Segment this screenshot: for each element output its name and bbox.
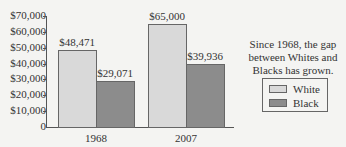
annotation-line: Blacks has grown. <box>240 64 346 77</box>
y-tick-label: $10,000 <box>10 104 46 116</box>
y-tick <box>43 16 46 17</box>
x-category-label: 1968 <box>66 132 126 144</box>
annotation-line: Since 1968, the gap <box>240 38 346 51</box>
bar-white-1968 <box>58 50 97 128</box>
y-tick <box>43 79 46 80</box>
bar-value-label: $48,471 <box>52 36 102 48</box>
bar-value-label: $39,936 <box>180 50 230 62</box>
bar-value-label: $29,071 <box>90 67 140 79</box>
legend-item-white: White <box>269 82 320 95</box>
legend-swatch-white <box>269 85 287 93</box>
y-tick-label: $40,000 <box>10 57 46 69</box>
y-tick-label: 0 <box>41 120 47 132</box>
legend: White Black <box>262 78 328 112</box>
y-tick-label: $50,000 <box>10 41 46 53</box>
legend-label-white: White <box>293 83 320 95</box>
y-axis <box>46 16 47 127</box>
y-tick-label: $30,000 <box>10 72 46 84</box>
y-tick <box>43 32 46 33</box>
bar-chart: 0$10,000$20,000$30,000$40,000$50,000$60,… <box>0 0 346 147</box>
bar-white-2007 <box>148 24 187 128</box>
y-tick-label: $60,000 <box>10 25 46 37</box>
legend-label-black: Black <box>293 97 319 109</box>
bar-black-2007 <box>186 64 225 128</box>
legend-swatch-black <box>269 99 287 107</box>
bar-black-1968 <box>96 81 135 128</box>
annotation-line: between Whites and <box>240 51 346 64</box>
y-tick <box>43 48 46 49</box>
legend-item-black: Black <box>269 96 319 109</box>
bar-value-label: $65,000 <box>142 10 192 22</box>
y-tick <box>43 111 46 112</box>
y-tick-label: $20,000 <box>10 88 46 100</box>
y-tick-label: $70,000 <box>10 9 46 21</box>
y-tick <box>43 95 46 96</box>
x-category-label: 2007 <box>156 132 216 144</box>
chart-annotation: Since 1968, the gap between Whites and B… <box>240 38 346 77</box>
y-tick <box>43 64 46 65</box>
